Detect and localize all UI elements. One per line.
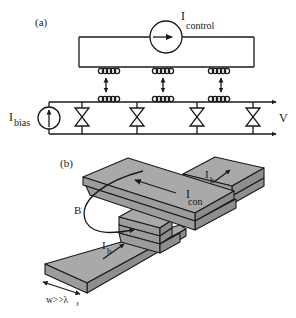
josephson-junction-2-icon	[130, 102, 144, 134]
bias-current-source-icon	[38, 107, 60, 129]
control-current-source-icon	[150, 21, 182, 53]
control-current-symbol: I	[181, 9, 185, 23]
coil-upper-1-icon	[98, 68, 119, 73]
coupling-coils	[98, 68, 229, 101]
control-current-subscript-b: con	[188, 196, 202, 207]
coil-lower-2-icon	[152, 96, 173, 101]
bias-current-top-symbol: I	[205, 168, 209, 180]
coil-upper-2-icon	[152, 68, 173, 73]
output-voltage-label: V	[279, 111, 288, 125]
control-current-subscript: control	[186, 20, 215, 31]
bias-current-symbol: I	[9, 110, 13, 124]
bias-current-bottom-symbol: I	[102, 239, 106, 251]
figure: (a) I control	[0, 0, 296, 318]
width-label: w>>λ	[46, 295, 69, 305]
width-label-subscript: J	[76, 300, 79, 308]
field-label: B	[74, 204, 81, 216]
panel-a-circuit: (a) I control	[9, 9, 288, 134]
coil-lower-1-icon	[98, 96, 119, 101]
panel-b-label: (b)	[60, 157, 73, 170]
panel-a-label: (a)	[35, 16, 48, 29]
josephson-junction-3-icon	[190, 102, 204, 134]
bias-current-bottom-subscript: b	[107, 246, 112, 256]
bias-current-subscript: bias	[14, 117, 30, 128]
coil-lower-3-icon	[208, 96, 229, 101]
control-loop	[79, 37, 254, 67]
josephson-junction-1-icon	[75, 102, 89, 134]
panel-b-device: (b) I b	[43, 157, 264, 308]
josephson-junction-4-icon	[246, 102, 260, 134]
coil-upper-3-icon	[208, 68, 229, 73]
